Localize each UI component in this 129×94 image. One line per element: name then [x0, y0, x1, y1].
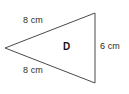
geometry-figure: 8 cm 8 cm 6 cm D: [0, 0, 129, 94]
shape-interior-label: D: [63, 42, 70, 52]
side-label-right: 6 cm: [100, 41, 120, 51]
side-label-top: 8 cm: [23, 15, 43, 25]
side-label-bottom: 8 cm: [23, 65, 43, 75]
